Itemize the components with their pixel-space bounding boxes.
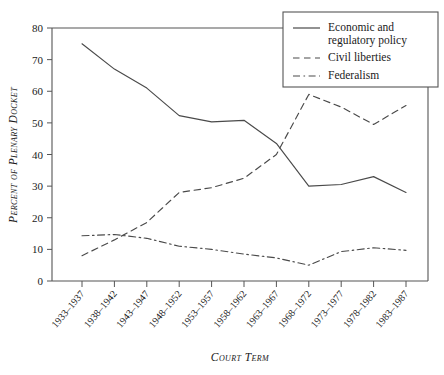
y-axis-ticks [47, 28, 52, 281]
x-tick-label: 1938–1942 [82, 288, 119, 330]
chart-legend: Economic and regulatory policy Civil lib… [283, 12, 438, 87]
legend-label-federalism: Federalism [328, 69, 379, 81]
x-tick-label: 1933–1937 [49, 288, 86, 330]
x-axis-title: Court Term [211, 351, 270, 363]
legend-label-civil-liberties: Civil liberties [328, 51, 391, 63]
series-path-civil-liberties [82, 94, 406, 255]
series-path-federalism [82, 235, 406, 266]
y-axis-tick-labels: 01020304050607080 [32, 22, 44, 287]
y-tick-label: 10 [32, 243, 44, 255]
x-tick-label: 1968–1972 [276, 288, 313, 330]
chart-figure: 01020304050607080 1933–19371938–19421943… [0, 0, 444, 375]
x-tick-label: 1983–1987 [373, 288, 410, 330]
y-tick-label: 80 [32, 22, 44, 34]
y-axis-title: Percent of Plenary Docket [7, 87, 19, 224]
legend-label-economic-line1: Economic and [328, 21, 394, 33]
y-tick-label: 40 [32, 149, 44, 161]
x-tick-label: 1978–1982 [341, 288, 378, 330]
x-tick-label: 1958–1962 [211, 288, 248, 330]
x-tick-label: 1943–1947 [114, 288, 151, 330]
y-tick-label: 20 [32, 212, 44, 224]
x-tick-label: 1953–1957 [179, 288, 216, 330]
x-tick-label: 1948–1952 [146, 288, 183, 330]
legend-label-economic-line2: regulatory policy [328, 34, 407, 47]
y-tick-label: 60 [32, 85, 44, 97]
x-axis-tick-labels: 1933–19371938–19421943–19471948–19521953… [49, 288, 410, 330]
y-tick-label: 70 [32, 54, 44, 66]
y-tick-label: 0 [38, 275, 44, 287]
x-tick-label: 1973–1977 [308, 288, 345, 330]
y-tick-label: 50 [32, 117, 44, 129]
line-chart: 01020304050607080 1933–19371938–19421943… [0, 0, 444, 375]
x-axis-ticks [82, 281, 406, 287]
x-tick-label: 1963–1967 [244, 288, 281, 330]
y-tick-label: 30 [32, 180, 44, 192]
